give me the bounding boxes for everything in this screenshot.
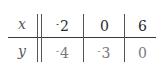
y-value-2-number: 3 <box>102 45 111 61</box>
header-divider <box>8 37 156 38</box>
row-label-y: y <box>8 41 36 61</box>
x-value-3-number: 6 <box>138 18 147 34</box>
x-value-1: -2 <box>42 14 83 34</box>
double-divider-left <box>37 14 38 62</box>
y-value-1: -4 <box>42 41 83 61</box>
x-value-1-number: 2 <box>60 18 69 34</box>
xy-value-table: x -2 0 6 y -4 -3 0 <box>0 0 159 69</box>
y-value-1-number: 4 <box>60 45 69 61</box>
x-value-3: 6 <box>125 14 159 34</box>
row-label-x: x <box>8 14 36 34</box>
y-value-3-number: 0 <box>138 45 147 61</box>
y-value-2: -3 <box>84 41 124 61</box>
negative-sign: - <box>98 46 101 56</box>
x-value-2-number: 0 <box>100 18 109 34</box>
negative-sign: - <box>56 19 59 29</box>
negative-sign: - <box>56 46 59 56</box>
y-value-3: 0 <box>125 41 159 61</box>
x-value-2: 0 <box>84 14 124 34</box>
